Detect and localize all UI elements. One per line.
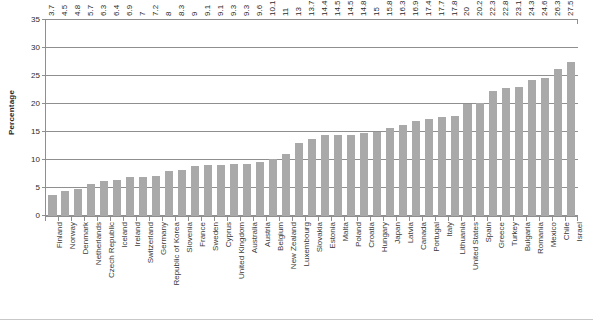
bar-value-label: 13.7 — [307, 0, 316, 16]
x-tick-mark — [370, 216, 371, 221]
bar: 20 — [463, 104, 471, 216]
bar-slot: 22.8 — [500, 20, 513, 216]
bar: 24.6 — [541, 78, 549, 216]
bar-value-label: 26.3 — [553, 0, 562, 16]
bar-value-label: 22.8 — [501, 0, 510, 16]
x-tick-slot — [45, 216, 58, 221]
bar-series: 3.74.54.85.76.36.46.977.288.399.19.19.39… — [46, 20, 578, 216]
bar-value-label: 8.3 — [177, 5, 186, 16]
bar-slot: 24.6 — [539, 20, 552, 216]
x-axis-category-label: Israel — [575, 222, 584, 242]
x-tick-mark — [539, 216, 540, 221]
bar: 9.3 — [243, 164, 251, 216]
x-tick-mark — [357, 216, 358, 221]
bar-value-label: 5.7 — [86, 5, 95, 16]
x-tick-mark — [396, 216, 397, 221]
x-tick-mark — [175, 216, 176, 221]
bar-slot: 23.1 — [513, 20, 526, 216]
bar-slot: 15.8 — [383, 20, 396, 216]
bar-slot: 14.8 — [357, 20, 370, 216]
bar-slot: 4.8 — [72, 20, 85, 216]
x-label-slot: Austria — [253, 222, 266, 314]
x-tick-mark — [344, 216, 345, 221]
bar: 22.8 — [502, 88, 510, 216]
x-label-slot: Australia — [240, 222, 253, 314]
x-tick-mark — [279, 216, 280, 221]
bar: 9.3 — [230, 164, 238, 216]
bar-slot: 16.3 — [396, 20, 409, 216]
x-tick-mark — [305, 216, 306, 221]
x-tick-mark — [513, 216, 514, 221]
x-tick-slot — [279, 216, 292, 221]
x-tick-mark — [214, 216, 215, 221]
y-tick-label: 20 — [31, 99, 40, 108]
x-tick-mark — [565, 216, 566, 221]
y-tick-label: 25 — [31, 71, 40, 80]
x-label-slot: Mexico — [539, 222, 552, 314]
x-label-slot: Denmark — [71, 222, 84, 314]
bar-value-label: 14.4 — [320, 0, 329, 16]
bar-slot: 20.2 — [474, 20, 487, 216]
bar: 15 — [373, 132, 381, 216]
bar-slot: 14.5 — [344, 20, 357, 216]
x-tick-mark — [552, 216, 553, 221]
bar-value-label: 10.1 — [268, 0, 277, 16]
x-tick-slot — [435, 216, 448, 221]
bar: 13.7 — [308, 139, 316, 216]
x-tick-slot — [474, 216, 487, 221]
x-label-slot: Czech Republic — [97, 222, 110, 314]
x-tick-slot — [552, 216, 565, 221]
bar-value-label: 9.1 — [203, 5, 212, 16]
x-tick-mark — [45, 216, 46, 221]
bar-value-label: 20 — [462, 7, 471, 16]
bar-value-label: 14.5 — [333, 0, 342, 16]
x-tick-mark — [331, 216, 332, 221]
x-tick-mark — [487, 216, 488, 221]
bar: 17.4 — [425, 119, 433, 216]
bar-slot: 7 — [137, 20, 150, 216]
x-label-slot: Norway — [58, 222, 71, 314]
x-label-slot: Slovenia — [175, 222, 188, 314]
x-tick-mark — [292, 216, 293, 221]
x-tick-mark — [461, 216, 462, 221]
x-label-slot: Finland — [45, 222, 58, 314]
bar-slot: 17.7 — [435, 20, 448, 216]
x-label-slot: Estonia — [318, 222, 331, 314]
x-tick-slot — [344, 216, 357, 221]
bar-value-label: 3.7 — [47, 5, 56, 16]
x-label-slot: Greece — [487, 222, 500, 314]
bar: 16.3 — [399, 125, 407, 216]
bar-slot: 7.2 — [150, 20, 163, 216]
bar-value-label: 20.2 — [475, 0, 484, 16]
bar-slot: 13.7 — [305, 20, 318, 216]
x-tick-mark — [526, 216, 527, 221]
y-tick-label: 30 — [31, 43, 40, 52]
bar-value-label: 4.5 — [60, 5, 69, 16]
x-axis-category-labels: FinlandNorwayDenmarkNetherlandsCzech Rep… — [45, 222, 578, 314]
bar-slot: 9.3 — [241, 20, 254, 216]
bar: 15.8 — [386, 128, 394, 216]
bar-slot: 4.5 — [59, 20, 72, 216]
x-label-slot: Malta — [331, 222, 344, 314]
x-tick-mark — [123, 216, 124, 221]
y-axis-title-text: Percentage — [8, 90, 17, 135]
bar-chart-figure: Percentage 05101520253035 3.74.54.85.76.… — [0, 0, 593, 320]
x-label-slot: Israel — [565, 222, 578, 314]
bar-value-label: 7.2 — [151, 5, 160, 16]
x-tick-mark — [58, 216, 59, 221]
x-label-slot: Germany — [149, 222, 162, 314]
x-label-slot: Turkey — [500, 222, 513, 314]
bar-value-label: 15.8 — [385, 0, 394, 16]
x-label-slot: Italy — [435, 222, 448, 314]
x-tick-mark — [149, 216, 150, 221]
x-tick-slot — [188, 216, 201, 221]
x-tick-mark — [318, 216, 319, 221]
x-tick-slot — [123, 216, 136, 221]
bar-slot: 15 — [370, 20, 383, 216]
x-tick-slot — [175, 216, 188, 221]
bar: 6.4 — [113, 180, 121, 216]
x-axis-tick-marks — [45, 216, 578, 221]
x-label-slot: Republic of Korea — [162, 222, 175, 314]
bar-value-label: 9.3 — [229, 5, 238, 16]
x-tick-mark — [97, 216, 98, 221]
